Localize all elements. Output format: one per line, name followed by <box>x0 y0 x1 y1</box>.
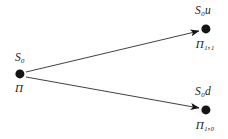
edge-layer <box>0 0 228 139</box>
binomial-tree-diagram: S₀ П S₀u П₁,₁ S₀d П₁,₀ <box>0 0 228 139</box>
up-node-label-above: S₀u <box>195 5 211 17</box>
root-node-label-below: П <box>15 83 23 94</box>
up-node-label-below: П₁,₁ <box>196 39 215 50</box>
down-node-label-below: П₁,₀ <box>196 120 215 131</box>
edge-root-to-down-line <box>26 77 199 108</box>
edge-root-to-up-line <box>26 31 199 72</box>
down-node-label-above: S₀d <box>195 86 211 98</box>
root-node-label-above: S₀ <box>15 52 25 64</box>
